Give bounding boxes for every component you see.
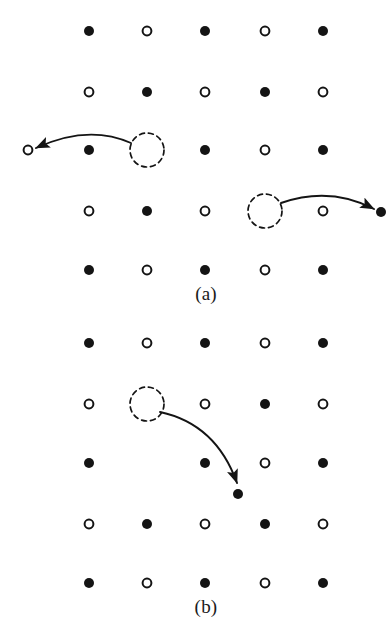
panel-a-r2-c5-open-atom [319,88,328,97]
panel-b-moved-filled-atom-down [233,489,243,499]
panel-a-r2-c2-filled-atom [142,87,152,97]
panel-a-r5-c4-open-atom [261,266,270,275]
panel-b-r2-c3-open-atom [201,400,210,409]
panel-a-r3-c1-filled-atom [84,145,94,155]
panel-b-r4-c2-filled-atom [142,519,152,529]
panel-b-r5-c1-filled-atom [84,578,94,588]
panel-a-r5-c3-filled-atom [200,265,210,275]
figure-background [0,0,390,643]
panel-a-r3-c4-open-atom [261,146,270,155]
panel-a-r4-c3-open-atom [201,207,210,216]
panel-b-r3-c3-filled-atom [200,458,210,468]
panel-a-r2-c3-open-atom [201,88,210,97]
panel-a-r5-c2-open-atom [143,266,152,275]
panel-a-moved-filled-atom-right [376,207,386,217]
panel-a-moved-open-atom-left [24,146,33,155]
panel-a-r1-c1-filled-atom [84,26,94,36]
panel-b-r4-c5-open-atom [319,520,328,529]
figure-root: (a) (b) [0,0,390,643]
panel-a-r3-c3-filled-atom [200,145,210,155]
panel-b-r5-c4-open-atom [261,579,270,588]
panel-b-r5-c5-filled-atom [318,578,328,588]
panel-a-r4-c5-open-atom [319,207,328,216]
panel-b-r1-c5-filled-atom [318,338,328,348]
panel-a-r1-c4-open-atom [261,27,270,36]
panel-b-r2-c4-filled-atom [260,399,270,409]
panel-b-r2-c5-open-atom [319,400,328,409]
panel-b-r3-c4-open-atom [261,459,270,468]
panel-b-r5-c3-filled-atom [200,578,210,588]
panel-b-r1-c3-filled-atom [200,338,210,348]
panel-b-caption: (b) [176,597,236,616]
panel-a-r4-c1-open-atom [85,207,94,216]
panel-b-r1-c2-open-atom [143,339,152,348]
panel-b-r4-c4-filled-atom [260,519,270,529]
panel-a-r1-c2-open-atom [143,27,152,36]
lattice-diagram-canvas [0,0,390,643]
panel-a-r4-c2-filled-atom [142,206,152,216]
panel-a-r1-c3-filled-atom [200,26,210,36]
panel-a-r2-c1-open-atom [85,88,94,97]
panel-b-r5-c2-open-atom [143,579,152,588]
panel-a-caption: (a) [176,284,236,303]
panel-a-r1-c5-filled-atom [318,26,328,36]
panel-b-r3-c1-filled-atom [84,458,94,468]
panel-b-r1-c4-open-atom [261,339,270,348]
panel-a-r3-c5-filled-atom [318,145,328,155]
panel-a-r5-c1-filled-atom [84,265,94,275]
panel-b-r3-c5-filled-atom [318,458,328,468]
panel-a-r2-c4-filled-atom [260,87,270,97]
panel-b-r1-c1-filled-atom [84,338,94,348]
panel-a-r5-c5-filled-atom [318,265,328,275]
panel-b-r4-c1-open-atom [85,520,94,529]
panel-b-r2-c1-open-atom [85,400,94,409]
panel-b-r4-c3-open-atom [201,520,210,529]
